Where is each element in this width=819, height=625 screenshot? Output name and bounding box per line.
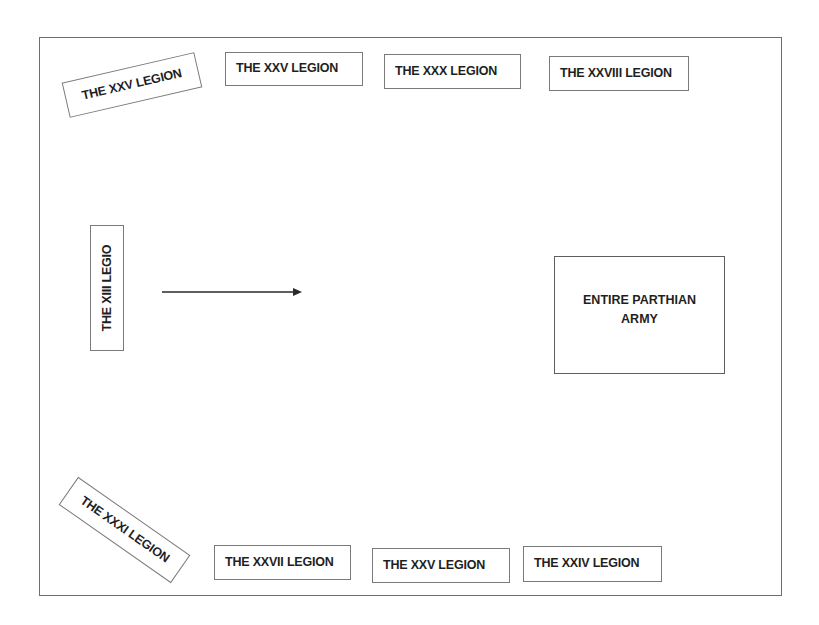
legion-label: THE XIII LEGIO — [100, 245, 114, 332]
legion-box-top-3: THE XXX LEGION — [384, 54, 521, 89]
legion-box-bottom-3: THE XXV LEGION — [372, 548, 510, 583]
legion-label: THE XXIV LEGION — [534, 556, 639, 570]
parthian-army-box: ENTIRE PARTHIAN ARMY — [554, 256, 725, 374]
legion-label: THE XXV LEGION — [383, 558, 485, 572]
legion-label: THE XXX LEGION — [395, 64, 497, 78]
legion-box-bottom-2: THE XXVII LEGION — [214, 545, 351, 580]
arrow-right-icon — [162, 286, 304, 298]
enemy-label: ENTIRE PARTHIAN ARMY — [570, 291, 710, 329]
legion-box-left: THE XIII LEGIO — [90, 225, 124, 351]
legion-box-top-4: THE XXVIII LEGION — [549, 56, 689, 91]
legion-label: THE XXVII LEGION — [225, 555, 334, 569]
legion-label: THE XXV LEGION — [236, 61, 338, 75]
legion-label: THE XXVIII LEGION — [560, 66, 672, 80]
legion-box-top-2: THE XXV LEGION — [225, 52, 363, 86]
legion-box-bottom-4: THE XXIV LEGION — [523, 546, 662, 582]
